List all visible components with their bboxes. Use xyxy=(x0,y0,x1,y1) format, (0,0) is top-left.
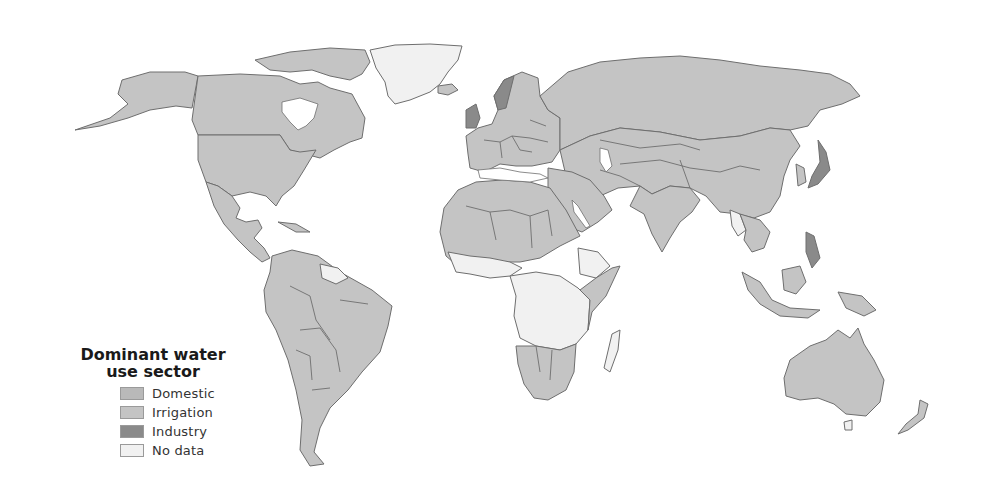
mediterranean-sea xyxy=(478,168,548,182)
swatch-industry xyxy=(120,425,144,438)
region-japan xyxy=(808,140,830,188)
map-legend: Dominant water use sector Domestic Irrig… xyxy=(78,346,258,460)
region-alaska xyxy=(75,72,198,130)
legend-label: No data xyxy=(152,443,205,458)
region-philippines xyxy=(806,232,820,268)
region-borneo xyxy=(782,266,806,294)
legend-title-line2: use sector xyxy=(78,363,228,380)
region-korea xyxy=(796,164,806,186)
region-europe xyxy=(466,72,560,172)
region-southern-africa xyxy=(516,344,576,400)
region-madagascar xyxy=(604,330,620,372)
region-russia xyxy=(540,56,860,150)
region-india xyxy=(630,186,700,252)
swatch-no-data xyxy=(120,444,144,457)
swatch-irrigation xyxy=(120,406,144,419)
legend-items: Domestic Irrigation Industry No data xyxy=(120,384,258,460)
legend-label: Industry xyxy=(152,424,207,439)
legend-title-line1: Dominant water xyxy=(78,346,228,363)
legend-item-irrigation: Irrigation xyxy=(120,403,258,422)
legend-label: Domestic xyxy=(152,386,215,401)
region-uk xyxy=(466,104,480,128)
region-south-america xyxy=(264,250,392,466)
swatch-domestic xyxy=(120,387,144,400)
region-australia xyxy=(784,328,884,416)
region-indonesia xyxy=(742,272,820,318)
region-new-guinea xyxy=(838,292,876,316)
region-central-africa-nodata xyxy=(510,272,590,350)
region-new-zealand xyxy=(898,400,928,434)
region-iceland xyxy=(438,84,458,95)
region-se-asia xyxy=(740,214,770,252)
legend-item-domestic: Domestic xyxy=(120,384,258,403)
legend-title: Dominant water use sector xyxy=(78,346,228,380)
legend-item-industry: Industry xyxy=(120,422,258,441)
region-cuba xyxy=(278,222,310,232)
region-tasmania xyxy=(844,420,852,430)
legend-label: Irrigation xyxy=(152,405,213,420)
legend-item-no-data: No data xyxy=(120,441,258,460)
